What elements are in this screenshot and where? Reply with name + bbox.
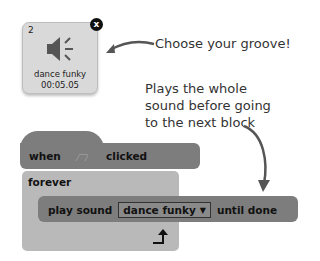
when-flag-clicked-block[interactable]: when clicked [20, 143, 200, 169]
arrow-down-icon [238, 122, 278, 194]
chevron-down-icon: ▼ [200, 206, 206, 215]
sound-name: dance funky [23, 69, 97, 79]
sound-duration: 00:05.05 [23, 80, 97, 90]
sound-tile[interactable]: 2 x dance funky 00:05.05 [22, 22, 98, 94]
speaker-icon [43, 34, 79, 64]
loop-arrow-icon [152, 229, 170, 245]
sound-number: 2 [28, 25, 34, 35]
play-sound-until-done-block[interactable]: play sound dance funky ▼ until done [38, 196, 298, 222]
arrow-left-icon [104, 36, 156, 58]
sound-dropdown[interactable]: dance funky ▼ [118, 202, 211, 218]
callout-choose: Choose your groove! [155, 36, 291, 51]
forever-label: forever [28, 176, 71, 188]
close-icon[interactable]: x [90, 18, 103, 31]
green-flag-icon [74, 152, 92, 162]
